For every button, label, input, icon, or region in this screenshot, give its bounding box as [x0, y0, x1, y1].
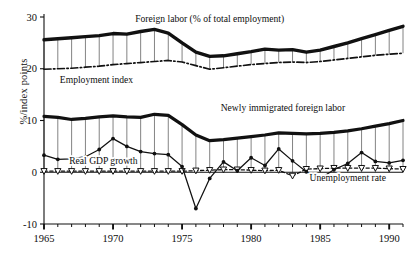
chart-plot-area: -100102030196519701975198019851990 Forei… [0, 0, 411, 259]
gdp-growth-marker [387, 161, 391, 165]
x-tick-label: 1965 [34, 233, 55, 244]
tick-labels-group: -100102030196519701975198019851990 [23, 12, 400, 244]
axes-group [40, 14, 403, 230]
gdp-growth-marker [304, 170, 308, 174]
gdp-growth-marker [125, 144, 129, 148]
series-annotation-label: Foreign labor (% of total employment) [135, 13, 284, 25]
unemployment-marker [289, 173, 295, 179]
series-line [44, 114, 403, 140]
x-tick-label: 1970 [103, 233, 124, 244]
gdp-growth-marker [291, 159, 295, 163]
gdp-growth-marker [277, 147, 281, 151]
gdp-growth-marker [166, 153, 170, 157]
series-line [44, 26, 403, 56]
x-tick-label: 1990 [379, 233, 400, 244]
x-tick-label: 1980 [241, 233, 262, 244]
gdp-growth-marker [180, 165, 184, 169]
chart-container: %/index points -100102030196519701975198… [0, 0, 411, 259]
series-annotation-label: Real GDP growth [69, 155, 138, 166]
y-tick-label: 0 [32, 167, 37, 178]
series-annotation-label: Employment index [60, 74, 133, 85]
gdp-growth-marker [373, 159, 377, 163]
x-tick-label: 1985 [310, 233, 331, 244]
series-annotation-label: Unemployment rate [310, 172, 386, 183]
gdp-growth-marker [208, 177, 212, 181]
gdp-growth-marker [222, 160, 226, 164]
gdp-growth-marker [360, 151, 364, 155]
gdp-growth-marker [153, 152, 157, 156]
series-annotation-label: Newly immigrated foreign labor [221, 102, 346, 113]
gdp-growth-marker [235, 169, 239, 173]
gdp-growth-marker [111, 137, 115, 141]
gdp-growth-marker [42, 153, 46, 157]
y-tick-label: 20 [27, 63, 38, 74]
y-tick-label: -10 [23, 219, 37, 230]
gdp-growth-marker [401, 158, 405, 162]
gdp-growth-marker [249, 156, 253, 160]
gdp-growth-marker [346, 162, 350, 166]
gdp-growth-marker [194, 207, 198, 211]
y-tick-label: 30 [27, 12, 38, 23]
data-series-group [41, 26, 406, 210]
gdp-growth-marker [139, 150, 143, 154]
gdp-growth-marker [56, 157, 60, 161]
y-tick-label: 10 [27, 115, 38, 126]
gdp-growth-marker [97, 148, 101, 152]
gdp-growth-marker [263, 164, 267, 168]
x-tick-label: 1975 [172, 233, 193, 244]
annotations-group: Foreign labor (% of total employment)For… [60, 13, 386, 182]
